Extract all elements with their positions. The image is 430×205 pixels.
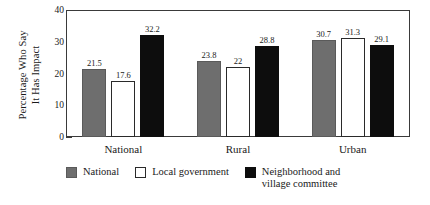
- bar: [82, 69, 106, 137]
- y-axis-tick-label: 30: [30, 37, 64, 47]
- bar-value-label: 30.7: [316, 29, 331, 39]
- legend-swatch-icon: [245, 167, 256, 178]
- y-axis-title-line-1: Percentage Who Say: [16, 0, 29, 150]
- x-axis-category-label: Rural: [226, 143, 250, 155]
- bar-value-label: 17.6: [116, 70, 131, 80]
- x-axis-category-label: National: [104, 143, 142, 155]
- y-axis-tick-label: 10: [30, 100, 64, 110]
- bar-value-label: 32.2: [145, 24, 160, 34]
- legend-label: National: [83, 166, 119, 178]
- bar: [341, 38, 365, 137]
- bar-value-label: 31.3: [345, 27, 360, 37]
- bar-value-label: 29.1: [374, 34, 389, 44]
- bar: [255, 46, 279, 137]
- bar-chart: Percentage Who Say It Has Impact 0102030…: [0, 0, 430, 205]
- bar-value-label: 21.5: [87, 58, 102, 68]
- legend-item[interactable]: Local government: [135, 166, 229, 178]
- x-axis-category-label: Urban: [339, 143, 367, 155]
- y-axis-tick-label: 0: [30, 132, 64, 142]
- bar-value-label: 22: [234, 56, 243, 66]
- bar: [312, 40, 336, 137]
- y-axis-tick-mark: [66, 137, 72, 138]
- bar: [140, 35, 164, 137]
- bar-value-label: 28.8: [260, 35, 275, 45]
- y-axis-tick-label: 40: [30, 5, 64, 15]
- bar: [226, 67, 250, 137]
- legend-label: Local government: [152, 166, 229, 178]
- bar-value-label: 23.8: [202, 50, 217, 60]
- legend-item[interactable]: Neighborhood and village committee: [245, 166, 340, 190]
- chart-legend: NationalLocal governmentNeighborhood and…: [66, 166, 416, 190]
- legend-swatch-icon: [135, 167, 146, 178]
- bar: [370, 45, 394, 137]
- bar: [111, 81, 135, 137]
- legend-label: Neighborhood and village committee: [262, 166, 340, 190]
- y-axis-tick-label: 20: [30, 69, 64, 79]
- legend-item[interactable]: National: [66, 166, 119, 178]
- legend-swatch-icon: [66, 167, 77, 178]
- bar: [197, 61, 221, 137]
